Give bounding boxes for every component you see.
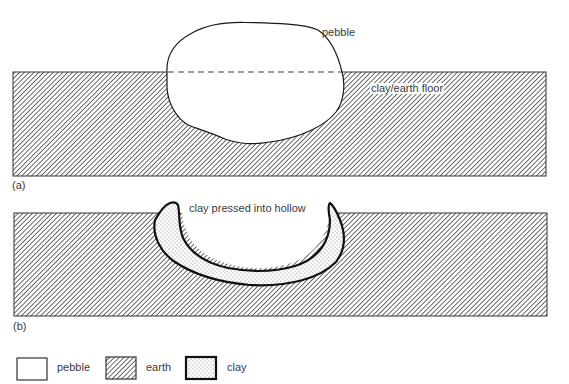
pebble-outline bbox=[167, 22, 344, 143]
diagram-canvas bbox=[0, 0, 569, 384]
caption-b: (b) bbox=[13, 321, 26, 332]
pebble-label: pebble bbox=[322, 27, 355, 38]
legend-label-earth: earth bbox=[146, 362, 171, 373]
legend-swatch-clay bbox=[186, 357, 216, 379]
clay-label: clay pressed into hollow bbox=[188, 203, 307, 214]
legend bbox=[17, 357, 216, 380]
floor-label: clay/earth floor bbox=[370, 83, 444, 94]
panel-b bbox=[14, 202, 547, 316]
legend-label-clay: clay bbox=[227, 362, 247, 373]
legend-label-pebble: pebble bbox=[57, 362, 90, 373]
legend-swatch-earth bbox=[106, 357, 136, 379]
legend-swatch-pebble bbox=[17, 358, 47, 380]
panel-a bbox=[13, 22, 546, 176]
caption-a: (a) bbox=[12, 180, 25, 191]
